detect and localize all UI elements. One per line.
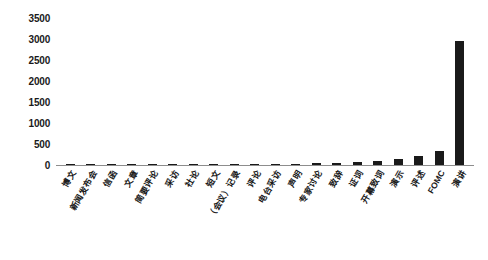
x-axis-tick-label: 演讲 xyxy=(451,169,468,189)
plot-area xyxy=(60,18,470,165)
x-axis-label-slot: 简要评论 xyxy=(142,167,163,259)
y-axis: 3500300025002000150010005000 xyxy=(0,0,56,183)
x-axis-tick-label: 评论 xyxy=(246,169,263,189)
bar-slot xyxy=(347,18,368,165)
bar xyxy=(230,164,239,165)
bar xyxy=(148,164,157,165)
x-axis-label-slot: 声明 xyxy=(286,167,307,259)
x-axis-label-slot: 社论 xyxy=(183,167,204,259)
x-axis-tick-label: 评述 xyxy=(410,169,427,189)
y-axis-tick-label: 2500 xyxy=(29,55,50,66)
x-axis-label-slot: 专家讨论 xyxy=(306,167,327,259)
x-axis-label-slot: 评述 xyxy=(409,167,430,259)
bar xyxy=(414,156,423,165)
bar-slot xyxy=(163,18,184,165)
bar xyxy=(353,162,362,165)
x-axis-tick-label: 演示 xyxy=(389,169,406,189)
bar-slot xyxy=(101,18,122,165)
bar-slot xyxy=(286,18,307,165)
x-axis-tick-label: 声明 xyxy=(287,169,304,189)
x-axis-label-slot: 博文 xyxy=(60,167,81,259)
bar-slot xyxy=(122,18,143,165)
bar-slot xyxy=(368,18,389,165)
bar-slot xyxy=(142,18,163,165)
bar xyxy=(435,151,444,165)
x-axis-label-slot: 证词 xyxy=(347,167,368,259)
y-axis-tick-label: 2000 xyxy=(29,76,50,87)
bar-slot xyxy=(265,18,286,165)
y-axis-tick-label: 1500 xyxy=(29,97,50,108)
x-axis-tick-label: 文章 xyxy=(123,169,140,189)
bar xyxy=(332,163,341,165)
bar xyxy=(66,164,75,165)
bar-slot xyxy=(429,18,450,165)
bar-slot xyxy=(183,18,204,165)
x-axis-tick-label: 致辞 xyxy=(328,169,345,189)
bar xyxy=(455,41,464,165)
bar-slot xyxy=(60,18,81,165)
bar-chart: 3500300025002000150010005000 博文新闻发布会信函文章… xyxy=(0,0,488,260)
bar xyxy=(209,164,218,165)
x-axis-line xyxy=(56,165,474,166)
x-axis-label-slot: 演讲 xyxy=(450,167,471,259)
y-axis-tick-label: 1000 xyxy=(29,118,50,129)
x-axis-label-slot: 演示 xyxy=(388,167,409,259)
bar-slot xyxy=(245,18,266,165)
bar xyxy=(127,164,136,165)
bar xyxy=(250,164,259,165)
x-axis-labels: 博文新闻发布会信函文章简要评论采访社论短文（会议）记录评论电台采访声明专家讨论致… xyxy=(60,167,470,259)
x-axis-label-slot: （会议）记录 xyxy=(224,167,245,259)
x-axis-tick-label: 社论 xyxy=(184,169,201,189)
y-axis-tick-label: 0 xyxy=(45,160,50,171)
y-axis-tick-label: 3000 xyxy=(29,34,50,45)
bar-slot xyxy=(81,18,102,165)
x-axis-label-slot: FOMC xyxy=(429,167,450,259)
x-axis-tick-label: 短文 xyxy=(205,169,222,189)
bar xyxy=(189,164,198,165)
bar xyxy=(107,164,116,165)
bar xyxy=(394,159,403,165)
x-axis-tick-label: 博文 xyxy=(61,169,78,189)
bar-slot xyxy=(388,18,409,165)
bar-slot xyxy=(306,18,327,165)
x-axis-tick-label: FOMC xyxy=(427,169,447,195)
bar xyxy=(86,164,95,165)
x-axis-tick-label: 证词 xyxy=(348,169,365,189)
bar xyxy=(373,161,382,165)
y-axis-tick-label: 3500 xyxy=(29,13,50,24)
bar-slot xyxy=(224,18,245,165)
bar xyxy=(312,163,321,165)
bar-slot xyxy=(204,18,225,165)
x-axis-label-slot: 信函 xyxy=(101,167,122,259)
x-axis-label-slot: 采访 xyxy=(163,167,184,259)
x-axis-label-slot: 致辞 xyxy=(327,167,348,259)
x-axis-label-slot: 评论 xyxy=(245,167,266,259)
bar xyxy=(168,164,177,165)
x-axis-label-slot: 新闻发布会 xyxy=(81,167,102,259)
bar-slot xyxy=(450,18,471,165)
x-axis-label-slot: 开幕致词 xyxy=(368,167,389,259)
bar xyxy=(291,164,300,165)
x-axis-tick-label: 采访 xyxy=(164,169,181,189)
bar-slot xyxy=(327,18,348,165)
bar-slot xyxy=(409,18,430,165)
x-axis-label-slot: 文章 xyxy=(122,167,143,259)
y-axis-tick-label: 500 xyxy=(34,139,50,150)
x-axis-label-slot: 电台采访 xyxy=(265,167,286,259)
x-axis-tick-label: 信函 xyxy=(102,169,119,189)
bar xyxy=(271,164,280,165)
